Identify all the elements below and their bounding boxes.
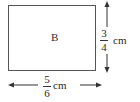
height-fraction: 3 4	[100, 27, 108, 54]
width-numerator: 5	[44, 74, 50, 85]
dimension-arrows	[0, 0, 140, 102]
width-denominator: 6	[44, 88, 50, 99]
rectangle-diagram: B 3 4 cm 5 6 cm	[0, 0, 140, 102]
height-denominator: 4	[101, 42, 107, 53]
width-fraction: 5 6	[42, 74, 52, 99]
height-numerator: 3	[101, 28, 107, 39]
width-unit: cm	[53, 79, 66, 91]
height-unit: cm	[113, 34, 126, 46]
